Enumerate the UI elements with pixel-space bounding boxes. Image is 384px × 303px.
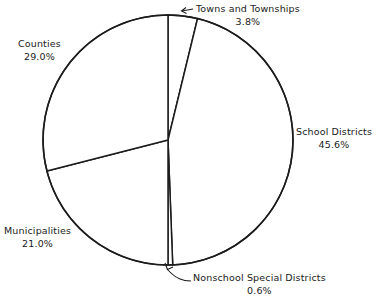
pie-chart-figure: Towns and Townships 3.8% Counties 29.0% … (0, 0, 384, 303)
pie-label-municipalities-name: Municipalities (4, 225, 71, 238)
pie-label-towns-and-townships: Towns and Townships 3.8% (196, 3, 300, 28)
pie-label-school-districts: School Districts 45.6% (296, 126, 372, 151)
pie-label-school-districts-value: 45.6% (296, 139, 372, 152)
pie-label-school-districts-name: School Districts (296, 126, 372, 139)
pie-label-towns-and-townships-name: Towns and Townships (196, 3, 300, 16)
pie-label-counties: Counties 29.0% (18, 38, 61, 63)
leader-line-nonschool-special-districts (167, 269, 191, 281)
pie-label-municipalities: Municipalities 21.0% (4, 225, 71, 250)
pie-label-nonschool-special-districts-name: Nonschool Special Districts (193, 272, 326, 285)
pie-label-towns-and-townships-value: 3.8% (196, 16, 300, 29)
pie-label-municipalities-value: 21.0% (4, 238, 71, 251)
pie-label-nonschool-special-districts: Nonschool Special Districts 0.6% (193, 272, 326, 297)
pie-label-nonschool-special-districts-value: 0.6% (193, 285, 326, 298)
pie-label-counties-value: 29.0% (18, 51, 61, 64)
pie-label-counties-name: Counties (18, 38, 61, 51)
